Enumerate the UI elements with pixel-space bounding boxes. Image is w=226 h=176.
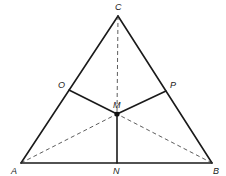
side-bc bbox=[118, 16, 212, 163]
label-a: A bbox=[10, 166, 17, 176]
label-b: B bbox=[213, 166, 219, 176]
label-n: N bbox=[113, 166, 120, 176]
label-m: M bbox=[113, 100, 121, 110]
triangle-diagram: C A B N M O P bbox=[0, 0, 226, 176]
label-c: C bbox=[115, 2, 122, 12]
dashed-am bbox=[21, 114, 117, 163]
dashed-bm bbox=[117, 114, 212, 163]
label-o: O bbox=[58, 80, 65, 90]
label-p: P bbox=[170, 80, 176, 90]
segment-mo bbox=[69, 90, 117, 114]
segment-mp bbox=[117, 91, 166, 114]
point-m-dot bbox=[114, 111, 119, 116]
